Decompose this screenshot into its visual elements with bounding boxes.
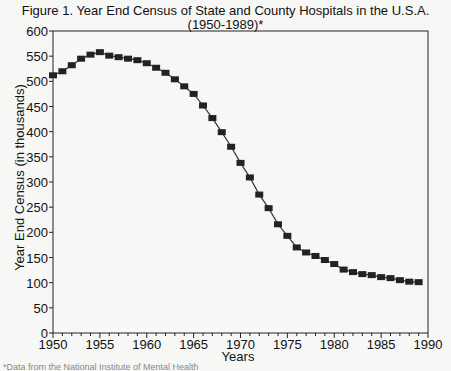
data-marker [124,56,132,62]
data-marker [246,174,254,180]
data-marker [340,267,348,273]
data-marker [133,57,141,63]
y-tick-label: 600 [26,24,48,39]
y-axis-label: Year End Census (in thousands) [12,78,27,278]
data-marker [105,53,113,59]
data-marker [415,279,423,285]
y-tick-label: 300 [26,175,48,190]
data-marker [68,62,76,68]
data-marker [190,91,198,97]
data-marker [274,221,282,227]
y-tick-label: 200 [26,225,48,240]
data-marker [368,272,376,278]
data-marker [227,144,235,150]
y-tick-label: 100 [26,276,48,291]
data-marker [180,83,188,89]
y-tick-label: 400 [26,125,48,140]
y-tick-label: 150 [26,251,48,266]
data-marker [349,269,357,275]
data-marker [358,271,366,277]
data-marker [321,257,329,263]
data-line [53,52,419,282]
y-tick-label: 450 [26,100,48,115]
y-tick-label: 550 [26,49,48,64]
plot-frame [53,31,428,333]
data-marker [387,275,395,281]
data-marker [237,160,245,166]
data-marker [115,54,123,60]
data-marker [171,76,179,82]
footnote: *Data from the National Institute of Men… [3,362,199,371]
data-marker [405,279,413,285]
data-marker [96,49,104,55]
data-marker [255,192,263,198]
data-marker [49,72,57,78]
data-marker [162,70,170,76]
data-marker [330,261,338,267]
data-marker [87,52,95,58]
y-tick-label: 350 [26,150,48,165]
data-marker [152,65,160,71]
data-marker [377,274,385,280]
data-marker [218,129,226,135]
data-marker [58,68,66,74]
y-tick-label: 250 [26,200,48,215]
data-marker [312,253,320,259]
y-tick-label: 50 [34,301,48,316]
data-marker [293,244,301,250]
data-marker [396,277,404,283]
data-marker [283,233,291,239]
data-marker [199,102,207,108]
line-chart: 0501001502002503003504004505005506001950… [0,0,451,371]
y-tick-label: 500 [26,74,48,89]
data-marker [302,249,310,255]
data-marker [143,60,151,66]
data-marker [77,56,85,62]
data-marker [265,205,273,211]
data-marker [208,115,216,121]
